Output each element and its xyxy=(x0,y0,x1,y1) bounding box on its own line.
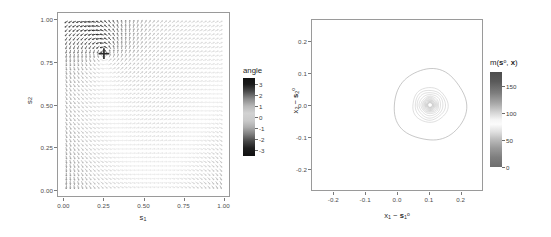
right-x-tick-label: -0.2 xyxy=(328,196,339,203)
left-x-axis-title: s1 xyxy=(140,213,147,222)
left-x-tick-mark xyxy=(63,198,64,201)
left-plot-area xyxy=(57,12,230,197)
left-y-axis-title-sub: 2 xyxy=(27,97,33,100)
angle-legend-title: angle xyxy=(243,66,262,75)
right-x-tick-mark xyxy=(333,192,334,195)
angle-legend-tick-label: -1 xyxy=(259,125,265,132)
angle-legend-tick-label: 3 xyxy=(259,80,262,87)
left-x-tick-label: 0.50 xyxy=(137,202,149,209)
contour-lines xyxy=(312,20,482,190)
m-legend-title-prefix: m( xyxy=(490,58,499,67)
m-legend: m(so, x) 150100500 xyxy=(490,58,542,183)
m-legend-tick-label: 0 xyxy=(506,164,509,171)
right-x-tick-label: 0.2 xyxy=(456,196,465,203)
left-y-tick-mark xyxy=(54,190,57,191)
left-y-tick-label: 0.00 xyxy=(31,187,53,194)
right-y-tick-mark xyxy=(308,41,311,42)
right-x-tick-mark xyxy=(365,192,366,195)
right-y-axis-title-b-sub: 2 xyxy=(294,91,300,94)
right-panel-m-contours: -0.2-0.10.00.10.2 -0.2-0.10.00.10.2 x2 −… xyxy=(280,0,551,237)
right-y-tick-label: -0.1 xyxy=(286,133,307,140)
left-y-tick-mark xyxy=(54,62,57,63)
right-y-axis-title: x2 − s2o xyxy=(290,77,299,125)
angle-legend: angle 3210-1-2-3 xyxy=(243,66,280,178)
angle-legend-tick-label: 0 xyxy=(259,114,262,121)
left-y-tick-mark xyxy=(54,147,57,148)
left-x-tick-label: 0.75 xyxy=(177,202,189,209)
right-y-tick-label: 0.1 xyxy=(286,70,307,77)
m-legend-tick-label: 150 xyxy=(506,82,516,89)
angle-legend-tick-mark xyxy=(255,95,258,96)
m-legend-title-suffix: ) xyxy=(515,58,518,67)
left-y-tick-mark xyxy=(54,105,57,106)
angle-legend-tick-mark xyxy=(255,150,258,151)
left-y-tick-label: 1.00 xyxy=(31,15,53,22)
right-x-tick-mark xyxy=(397,192,398,195)
left-y-tick-label: 0.25 xyxy=(31,144,53,151)
cross-marker xyxy=(58,13,229,196)
right-y-tick-mark xyxy=(308,105,311,106)
angle-legend-tick-label: -2 xyxy=(259,136,265,143)
right-x-tick-label: 0.1 xyxy=(424,196,433,203)
left-panel-angle-field: 0.000.250.500.751.00 0.000.250.500.751.0… xyxy=(0,0,280,237)
right-y-tick-label: -0.2 xyxy=(286,165,307,172)
angle-legend-tick-mark xyxy=(255,117,258,118)
right-y-tick-mark xyxy=(308,137,311,138)
left-x-tick-mark xyxy=(103,198,104,201)
left-y-tick-label: 0.75 xyxy=(31,58,53,65)
left-x-tick-mark xyxy=(224,198,225,201)
m-legend-tick-mark xyxy=(502,140,505,141)
left-y-tick-label: 0.50 xyxy=(31,101,53,108)
left-x-tick-label: 0.25 xyxy=(97,202,109,209)
right-x-tick-mark xyxy=(461,192,462,195)
right-x-tick-label: 0.0 xyxy=(393,196,402,203)
m-legend-title: m(so, x) xyxy=(490,58,518,67)
m-legend-tick-label: 50 xyxy=(506,136,513,143)
angle-legend-tick-mark xyxy=(255,84,258,85)
m-legend-tick-mark xyxy=(502,167,505,168)
left-y-tick-mark xyxy=(54,19,57,20)
right-plot-area xyxy=(311,19,483,191)
right-y-tick-mark xyxy=(308,73,311,74)
right-x-axis-title: x1 − s1o xyxy=(384,211,410,220)
angle-legend-tick-mark xyxy=(255,139,258,140)
m-legend-tick-label: 100 xyxy=(506,109,516,116)
angle-legend-tick-mark xyxy=(255,128,258,129)
right-x-tick-mark xyxy=(429,192,430,195)
angle-legend-tick-mark xyxy=(255,106,258,107)
right-y-axis-title-a-sub: 2 xyxy=(294,107,300,110)
figure-canvas: 0.000.250.500.751.00 0.000.250.500.751.0… xyxy=(0,0,551,237)
right-y-axis-title-b-sup: o xyxy=(290,88,296,91)
left-x-tick-mark xyxy=(184,198,185,201)
angle-legend-tick-label: 2 xyxy=(259,91,262,98)
m-legend-tick-mark xyxy=(502,113,505,114)
angle-legend-tick-label: -3 xyxy=(259,147,265,154)
m-legend-tick-mark xyxy=(502,86,505,87)
left-x-tick-label: 1.00 xyxy=(217,202,229,209)
left-x-tick-label: 0.00 xyxy=(57,202,69,209)
right-y-tick-label: 0.2 xyxy=(286,38,307,45)
left-x-axis-title-sub: 1 xyxy=(143,216,146,222)
right-x-tick-label: -0.1 xyxy=(360,196,371,203)
left-y-axis-title: s2 xyxy=(25,86,34,116)
m-colorbar xyxy=(490,72,502,167)
left-x-tick-mark xyxy=(144,198,145,201)
angle-legend-tick-label: 1 xyxy=(259,102,262,109)
right-x-axis-title-b-sup: o xyxy=(407,211,410,217)
right-y-tick-mark xyxy=(308,169,311,170)
angle-colorbar xyxy=(243,78,255,156)
